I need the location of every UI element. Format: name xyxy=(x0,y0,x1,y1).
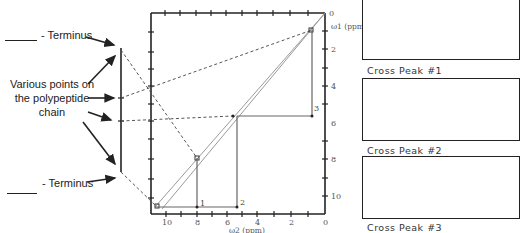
y-tick-labels: 0 2 4 6 8 10 xyxy=(329,9,341,201)
various-arrow-3 xyxy=(88,112,111,120)
cross-point-3: 3 xyxy=(314,104,319,113)
x-tick-10: 10 xyxy=(162,218,172,227)
cross-peak-2-label: Cross Peak #2 xyxy=(367,145,442,156)
y-tick-10: 10 xyxy=(331,192,341,201)
cross-peak-3-label: Cross Peak #3 xyxy=(367,222,442,233)
cross-peak-3-box[interactable] xyxy=(362,156,520,219)
pointer-arrows xyxy=(83,37,115,182)
cross-peak-2-box[interactable] xyxy=(362,78,520,141)
cross-peak-1-box[interactable] xyxy=(362,0,520,60)
bottom-terminus-arrow xyxy=(87,178,115,182)
various-arrow-1 xyxy=(88,56,115,84)
diagonal-band xyxy=(155,13,325,209)
y-tick-0: 0 xyxy=(329,9,334,18)
x-axis-title: ω2 (ppm) xyxy=(229,226,265,233)
cross-point-2: 2 xyxy=(240,198,245,207)
x-tick-8: 8 xyxy=(195,218,200,227)
cross-peak-1-label: Cross Peak #1 xyxy=(367,65,442,76)
y-tick-8: 8 xyxy=(331,155,336,164)
top-terminus-arrow xyxy=(86,37,114,45)
y-tick-4: 4 xyxy=(331,82,336,91)
y-tick-2: 2 xyxy=(331,45,336,54)
y-tick-6: 6 xyxy=(331,119,336,128)
dashed-connectors xyxy=(121,30,312,207)
cross-peak-points xyxy=(196,115,314,209)
cross-point-1: 1 xyxy=(200,199,205,208)
x-tick-0: 0 xyxy=(323,218,328,227)
x-tick-2: 2 xyxy=(289,218,294,227)
various-arrow-4 xyxy=(83,122,115,164)
